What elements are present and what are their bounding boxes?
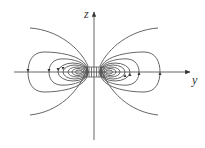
field-line-diagram: z y <box>0 0 205 148</box>
y-axis-label: y <box>191 73 198 87</box>
z-axis-label: z <box>83 7 89 21</box>
field-lines-right <box>100 28 162 115</box>
field-lines-left <box>27 28 89 115</box>
